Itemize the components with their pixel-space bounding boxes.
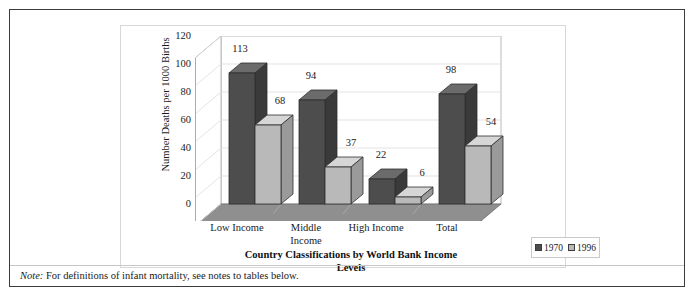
bar-total-1996	[465, 136, 503, 204]
value-label-total-1970: 98	[438, 64, 464, 75]
value-label-total-1996: 54	[478, 116, 504, 127]
legend-item-1970: 1970	[535, 243, 563, 253]
figure-note: Note: For definitions of infant mortalit…	[20, 270, 299, 281]
x-axis-title-line1: Country Classifications by World Bank In…	[181, 248, 521, 261]
legend-label-1970: 1970	[544, 243, 563, 253]
y-tick-120: 120	[165, 30, 191, 41]
legend-item-1996: 1996	[568, 243, 596, 253]
y-tick-40: 40	[165, 142, 191, 153]
chart-floor	[195, 204, 501, 221]
figure-note-lead: Note:	[20, 270, 43, 281]
chart-container: Number Deaths per 1000 Births 120 100 80…	[120, 25, 566, 268]
bar-low-income-1996	[255, 115, 293, 204]
bar-chart-3d	[195, 36, 525, 221]
y-tick-20: 20	[165, 170, 191, 181]
note-divider	[10, 265, 684, 266]
chart-left-wall	[195, 36, 221, 221]
category-label-total: Total	[405, 222, 489, 235]
value-label-low-income-1996: 68	[267, 95, 293, 106]
y-tick-0: 0	[165, 198, 191, 209]
value-label-middle-income-1996: 37	[338, 137, 364, 148]
value-label-high-income-1996: 6	[409, 167, 435, 178]
legend-label-1996: 1996	[577, 243, 596, 253]
figure-note-text: For definitions of infant mortality, see…	[43, 270, 298, 281]
legend-swatch-1996-icon	[568, 244, 575, 251]
value-label-low-income-1970: 113	[227, 43, 253, 54]
legend-swatch-1970-icon	[535, 244, 542, 251]
y-tick-80: 80	[165, 86, 191, 97]
y-tick-60: 60	[165, 114, 191, 125]
y-axis-tick-labels: 120 100 80 60 40 20 0	[161, 36, 191, 221]
category-label-middle-income-line2: Income	[264, 235, 348, 248]
y-tick-100: 100	[165, 58, 191, 69]
figure-frame: Number Deaths per 1000 Births 120 100 80…	[9, 9, 685, 287]
value-label-middle-income-1970: 94	[298, 70, 324, 81]
plot-area: 113 68 94 37 22 6 98 54	[195, 36, 525, 221]
value-label-high-income-1970: 22	[368, 149, 394, 160]
bar-middle-income-1996	[325, 157, 363, 204]
chart-legend: 1970 1996	[531, 237, 600, 258]
